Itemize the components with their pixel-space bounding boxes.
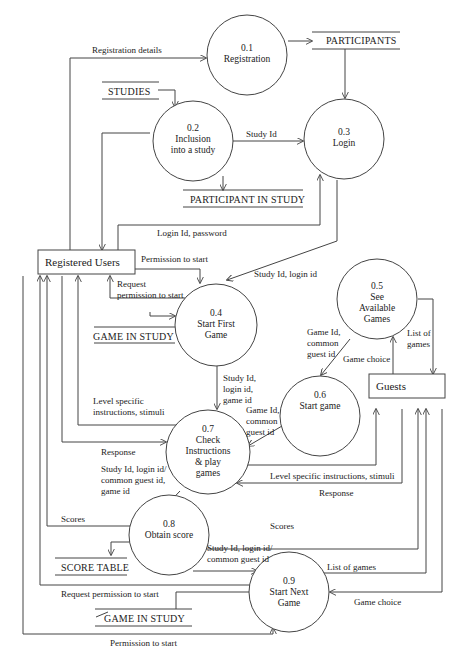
flow-label: Permission to start: [110, 638, 177, 648]
store-label: SCORE TABLE: [61, 562, 129, 573]
flow-label: Scores: [270, 521, 294, 531]
flow-label: Login Id, password: [157, 228, 227, 238]
flow-label: Study Id: [246, 129, 277, 139]
flow-label: Request permission to start: [61, 589, 159, 599]
flow-label: Permission to start: [141, 254, 208, 264]
flow-label: Response: [101, 447, 136, 457]
flow-label: List of games: [327, 562, 376, 572]
flow-label: guest id: [246, 427, 275, 437]
process-0-6[interactable]: 0.6 Start game: [280, 376, 360, 456]
process-label: Check: [196, 435, 221, 445]
process-label: Available: [359, 303, 395, 313]
flow-label: guest id: [307, 349, 336, 359]
flow-label: Study Id, login id/: [101, 464, 167, 474]
entity-guests[interactable]: Guests: [369, 374, 445, 398]
flow-label: Game Id,: [307, 327, 341, 337]
flow-label: Study Id, login id/: [207, 543, 273, 553]
flow-label: instructions, stimuli: [93, 407, 165, 417]
flow-label: common guest id,: [101, 475, 165, 485]
process-0-7[interactable]: 0.7 Check Instructions & play games: [166, 410, 250, 494]
entity-label: Guests: [376, 380, 406, 392]
process-0-8[interactable]: 0.8 Obtain score: [129, 495, 209, 575]
process-0-5[interactable]: 0.5 See Available Games: [337, 259, 417, 339]
flow-label: common: [307, 338, 339, 348]
process-0-9[interactable]: 0.9 Start Next Game: [249, 552, 329, 632]
flow-label: Game choice: [354, 597, 401, 607]
process-label: See: [370, 292, 384, 302]
process-label: Game: [205, 330, 228, 340]
process-id: 0.8: [163, 519, 175, 529]
process-0-1[interactable]: 0.1 Registration: [207, 15, 287, 95]
process-label: Start First: [197, 319, 235, 329]
flow-label: common: [246, 416, 278, 426]
store-score-table[interactable]: SCORE TABLE: [55, 558, 129, 575]
process-0-2[interactable]: 0.2 Inclusion into a study: [153, 101, 233, 181]
flow-label: games: [407, 339, 430, 349]
process-label: games: [196, 468, 221, 478]
flow-label: game id: [101, 486, 130, 496]
process-label: Instructions: [186, 446, 231, 456]
flow-label: Game Id,: [246, 405, 280, 415]
store-studies[interactable]: STUDIES: [102, 82, 159, 99]
flow-label: Response: [319, 488, 354, 498]
process-label: into a study: [171, 145, 216, 155]
process-id: 0.3: [338, 127, 350, 137]
process-id: 0.1: [241, 43, 253, 53]
flow-label: permission to start: [117, 290, 184, 300]
data-flow-diagram: 0.1 Registration 0.2 Inclusion into a st…: [0, 0, 462, 661]
process-label: Games: [364, 314, 391, 324]
entity-registered-users[interactable]: Registered Users: [38, 250, 135, 274]
flow-label: Level specific: [93, 396, 144, 406]
process-label: & play: [195, 457, 221, 467]
process-label: Inclusion: [175, 134, 211, 144]
store-label: PARTICIPANT IN STUDY: [190, 194, 305, 205]
process-label: Login: [333, 138, 356, 148]
store-label: GAME IN STUDY: [104, 613, 185, 624]
store-label: GAME IN STUDY: [93, 331, 174, 342]
process-id: 0.4: [210, 308, 222, 318]
flow-label: Game choice: [343, 354, 390, 364]
process-label: Obtain score: [145, 530, 193, 540]
flow-label: Request: [117, 279, 146, 289]
process-label: Start game: [300, 401, 341, 411]
flow-label: Study Id, login id: [254, 269, 318, 279]
process-0-4[interactable]: 0.4 Start First Game: [175, 284, 257, 366]
flow-label: Level specific instructions, stimuli: [270, 471, 395, 481]
store-label: PARTICIPANTS: [326, 35, 397, 46]
flow-label: common guest id: [207, 554, 269, 564]
flow-label: Study Id,: [223, 373, 256, 383]
store-participants[interactable]: PARTICIPANTS: [312, 32, 400, 49]
process-id: 0.2: [187, 123, 199, 133]
store-participant-in-study[interactable]: PARTICIPANT IN STUDY: [183, 190, 305, 207]
process-id: 0.5: [371, 281, 383, 291]
flow-label: login id,: [223, 384, 253, 394]
process-label: Game: [278, 598, 301, 608]
store-game-in-study-1[interactable]: GAME IN STUDY: [93, 327, 175, 343]
process-id: 0.6: [314, 390, 326, 400]
process-label: Registration: [224, 54, 271, 64]
flow-label: List of: [407, 328, 431, 338]
store-label: STUDIES: [108, 86, 151, 97]
process-0-3[interactable]: 0.3 Login: [304, 99, 384, 179]
process-id: 0.9: [283, 576, 295, 586]
store-game-in-study-2[interactable]: GAME IN STUDY: [95, 609, 192, 626]
flow-label: Registration details: [92, 45, 162, 55]
process-label: Start Next: [270, 587, 309, 597]
process-id: 0.7: [202, 424, 214, 434]
flow-label: game id: [223, 395, 252, 405]
entity-label: Registered Users: [45, 256, 120, 268]
flow-label: Scores: [61, 514, 85, 524]
